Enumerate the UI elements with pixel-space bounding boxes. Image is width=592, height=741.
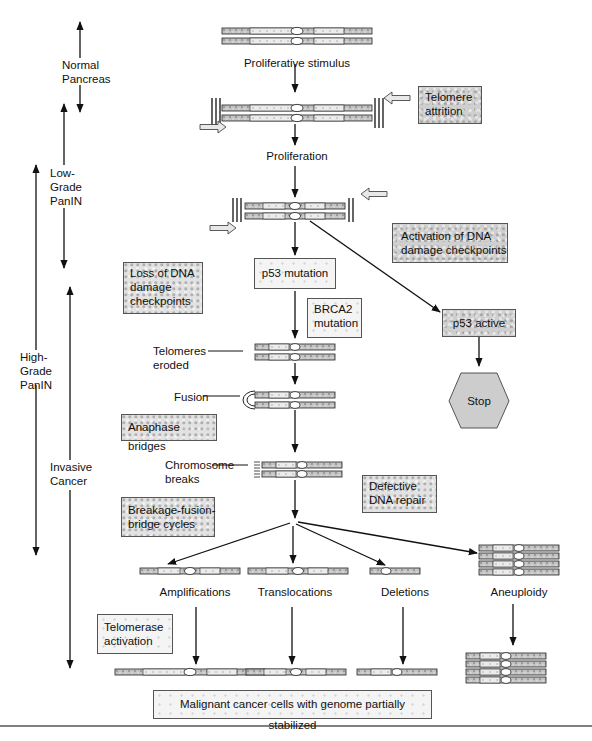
stage-low-grade-panin: Low- Grade PanIN: [50, 166, 82, 208]
label-proliferation: Proliferation: [222, 149, 372, 163]
label-stop: Stop: [449, 394, 509, 408]
annotation-breakage-fusion-bridge-cycles: Breakage-fusion- bridge cycles: [121, 497, 215, 537]
box-brca2-mutation: BRCA2 mutation: [307, 298, 362, 338]
label-telomeres-eroded: Telomeres eroded: [153, 344, 206, 372]
label-deletions: Deletions: [350, 585, 460, 599]
stage-invasive-cancer: Invasive Cancer: [50, 460, 92, 488]
label-fusion: Fusion: [174, 390, 209, 404]
annotation-defective-dna-repair: Defective DNA repair: [362, 475, 437, 513]
label-chromosome-breaks: Chromosome breaks: [165, 458, 234, 486]
pancreatic-cancer-progression-diagram: Normal Pancreas Low- Grade PanIN High- G…: [0, 0, 592, 741]
label-proliferative-stimulus: Proliferative stimulus: [222, 56, 372, 70]
box-p53-mutation: p53 mutation: [254, 258, 336, 289]
label-translocations: Translocations: [240, 585, 350, 599]
annotation-activation-dna-checkpoints: Activation of DNA damage checkpoints: [392, 223, 508, 263]
box-p53-active: p53 active: [442, 309, 516, 337]
annotation-telomere-attrition: Telomere attrition: [418, 86, 482, 124]
stage-high-grade-panin: High- Grade PanIN: [20, 350, 52, 392]
diagram-graphics: [0, 0, 592, 741]
label-aneuploidy: Aneuploidy: [464, 585, 574, 599]
label-amplifications: Amplifications: [140, 585, 250, 599]
stage-normal-pancreas: Normal Pancreas: [62, 58, 111, 86]
annotation-loss-dna-checkpoints: Loss of DNA damage checkpoints: [123, 262, 203, 314]
annotation-telomerase-activation: Telomerase activation: [97, 614, 173, 654]
box-malignant-cancer-cells: Malignant cancer cells with genome parti…: [153, 690, 432, 719]
annotation-anaphase-bridges: Anaphase bridges: [121, 414, 217, 441]
